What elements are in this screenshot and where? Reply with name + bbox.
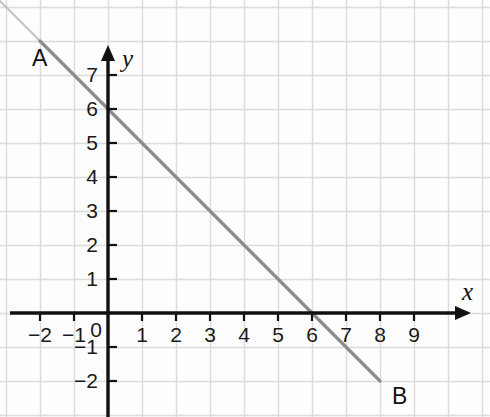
graph-canvas: −2−101234567897654321−1−2 x y A B [0, 0, 490, 417]
x-tick-label: 3 [204, 323, 216, 346]
y-axis-label: y [119, 45, 134, 72]
x-tick-label: 6 [306, 323, 318, 346]
point-label-a: A [32, 45, 48, 71]
y-tick-label: 4 [86, 165, 98, 188]
y-tick-label: 6 [86, 97, 98, 120]
x-tick-label: 9 [408, 323, 420, 346]
x-axis-label: x [461, 278, 473, 305]
y-tick-label: 1 [86, 267, 98, 290]
y-tick-label: 5 [86, 131, 98, 154]
x-tick-label: −2 [28, 323, 52, 346]
y-tick-label: −2 [74, 369, 98, 392]
y-tick-label: −1 [74, 335, 98, 358]
y-tick-label: 7 [86, 63, 98, 86]
x-tick-label: 8 [374, 323, 386, 346]
x-tick-label: 5 [272, 323, 284, 346]
x-tick-label: 7 [340, 323, 352, 346]
x-tick-label: 1 [136, 323, 148, 346]
y-tick-label: 2 [86, 233, 98, 256]
y-tick-label: 3 [86, 199, 98, 222]
x-tick-label: 4 [238, 323, 250, 346]
point-label-b: B [392, 383, 407, 409]
x-tick-label: 2 [170, 323, 182, 346]
coordinate-graph: −2−101234567897654321−1−2 x y A B [0, 0, 490, 417]
